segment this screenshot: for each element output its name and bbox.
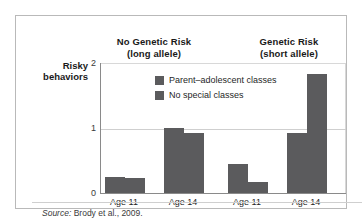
bar — [228, 164, 248, 193]
panel-title-no-genetic-risk: No Genetic Risk (long allele) — [94, 36, 214, 59]
plot-top-border — [101, 63, 346, 64]
panel-title-line2: (long allele) — [94, 48, 214, 60]
y-tick-label-1: 1 — [78, 123, 96, 133]
source-note: Source: Brody et al., 2009. — [42, 208, 143, 218]
panel-title-line1: Genetic Risk — [229, 36, 349, 48]
y-axis-title-line2: behaviors — [24, 71, 88, 82]
legend-swatch-icon — [155, 76, 164, 85]
figure-frame: No Genetic Risk (long allele) Genetic Ri… — [15, 15, 347, 209]
bar — [307, 74, 327, 193]
y-tick-label-2: 2 — [78, 58, 96, 68]
source-note-text: Brody et al., 2009. — [71, 208, 142, 218]
legend-item-no-special-classes: No special classes — [155, 89, 277, 101]
bar — [164, 128, 184, 194]
bar — [105, 177, 125, 193]
legend-label: No special classes — [169, 90, 244, 100]
source-divider — [32, 202, 362, 203]
panel-title-line2: (short allele) — [229, 48, 349, 60]
bar — [184, 133, 204, 193]
legend-swatch-icon — [155, 91, 164, 100]
chart-legend: Parent–adolescent classes No special cla… — [155, 74, 277, 104]
legend-label: Parent–adolescent classes — [169, 75, 277, 85]
source-note-label: Source: — [42, 208, 71, 218]
legend-item-parent-adolescent-classes: Parent–adolescent classes — [155, 74, 277, 86]
bar — [287, 133, 307, 193]
y-tick-label-0: 0 — [78, 188, 96, 198]
bar — [248, 182, 268, 193]
bar — [125, 178, 145, 193]
figure-container: No Genetic Risk (long allele) Genetic Ri… — [0, 0, 364, 223]
panel-title-line1: No Genetic Risk — [94, 36, 214, 48]
panel-title-genetic-risk: Genetic Risk (short allele) — [229, 36, 349, 59]
